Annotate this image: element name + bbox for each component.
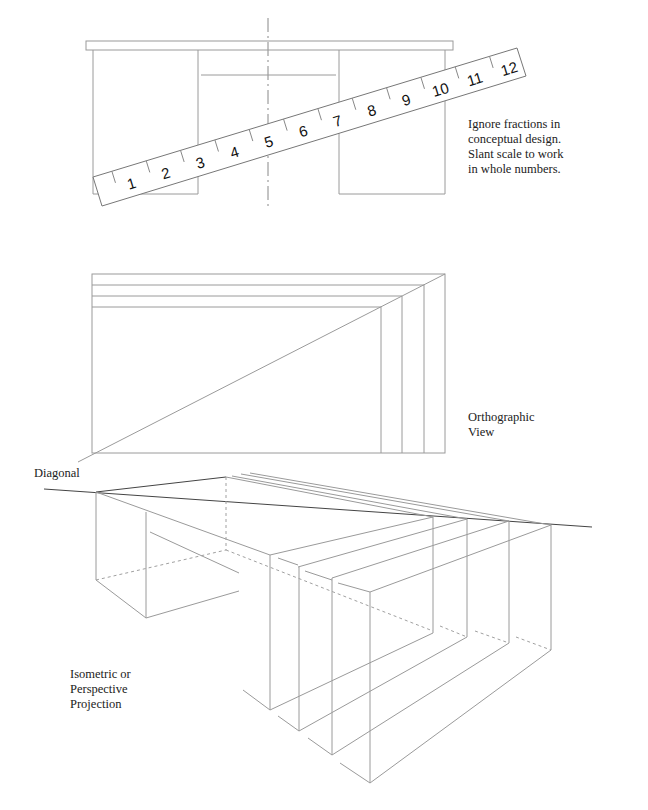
scale-note: Ignore fractions in conceptual design. S… bbox=[468, 117, 563, 177]
projection-label-line-3: Projection bbox=[70, 697, 121, 711]
orthographic-view-label: Orthographic View bbox=[468, 410, 535, 440]
scale-note-line-4: in whole numbers. bbox=[468, 162, 561, 176]
projection-label: Isometric or Perspective Projection bbox=[70, 667, 131, 712]
scale-note-line-1: Ignore fractions in bbox=[468, 117, 560, 131]
projection-label-line-1: Isometric or bbox=[70, 667, 131, 681]
slanted-scale-ruler: 123456789101112 bbox=[93, 48, 526, 206]
scale-note-line-2: conceptual design. bbox=[468, 132, 561, 146]
diagonal-label-text: Diagonal bbox=[34, 466, 80, 480]
orthographic-label-line-2: View bbox=[468, 425, 494, 439]
orthographic-label-line-1: Orthographic bbox=[468, 410, 535, 424]
scale-note-line-3: Slant scale to work bbox=[468, 147, 563, 161]
orthographic-view bbox=[78, 274, 445, 462]
diagonal-label: Diagonal bbox=[34, 466, 80, 481]
projection-label-line-2: Perspective bbox=[70, 682, 128, 696]
diagram-canvas: 123456789101112 bbox=[0, 0, 648, 810]
perspective-projection bbox=[44, 473, 592, 783]
